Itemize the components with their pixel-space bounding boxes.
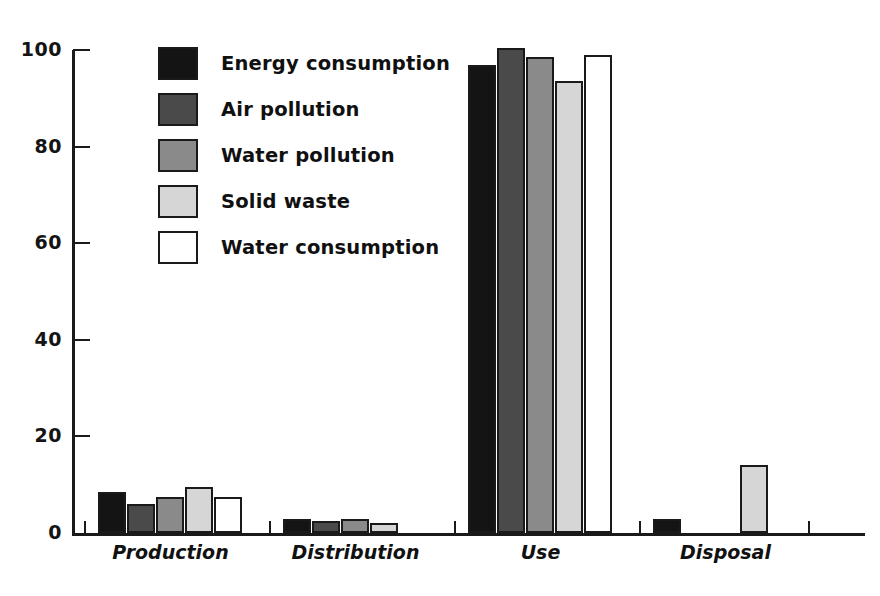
bar-distribution-solid-waste <box>370 523 398 533</box>
bar-production-solid-waste <box>185 487 213 533</box>
bar-production-energy-consumption <box>98 492 126 533</box>
legend-item-water-pollution[interactable]: Water pollution <box>158 132 450 178</box>
legend-label: Solid waste <box>221 190 350 213</box>
chart-legend: Energy consumptionAir pollutionWater pol… <box>158 40 450 270</box>
bar-chart: 020406080100 ProductionDistributionUseDi… <box>0 0 880 596</box>
legend-swatch-icon <box>158 93 198 126</box>
x-axis-label-disposal: Disposal <box>593 542 858 563</box>
legend-label: Water pollution <box>221 144 395 167</box>
legend-swatch-icon <box>158 47 198 80</box>
legend-swatch-icon <box>158 139 198 172</box>
bar-disposal-solid-waste <box>740 465 768 533</box>
legend-item-air-pollution[interactable]: Air pollution <box>158 86 450 132</box>
bar-use-water-pollution <box>526 57 554 533</box>
bar-use-air-pollution <box>497 48 525 533</box>
bar-use-solid-waste <box>555 81 583 533</box>
legend-item-energy-consumption[interactable]: Energy consumption <box>158 40 450 86</box>
legend-item-solid-waste[interactable]: Solid waste <box>158 178 450 224</box>
legend-item-water-consumption[interactable]: Water consumption <box>158 224 450 270</box>
y-axis-tick-label-20: 20 <box>0 426 62 445</box>
legend-label: Water consumption <box>221 236 439 259</box>
legend-label: Air pollution <box>221 98 360 121</box>
bar-distribution-water-pollution <box>341 519 369 533</box>
bar-distribution-air-pollution <box>312 521 340 533</box>
bar-use-energy-consumption <box>468 65 496 534</box>
bar-production-water-pollution <box>156 497 184 533</box>
y-axis-tick-label-60: 60 <box>0 233 62 252</box>
y-axis-tick-label-40: 40 <box>0 330 62 349</box>
legend-swatch-icon <box>158 185 198 218</box>
bar-distribution-energy-consumption <box>283 519 311 533</box>
legend-swatch-icon <box>158 231 198 264</box>
legend-label: Energy consumption <box>221 52 450 75</box>
y-axis-tick-label-0: 0 <box>0 523 62 542</box>
bar-disposal-energy-consumption <box>653 519 681 533</box>
x-axis-line <box>72 533 865 536</box>
y-axis-tick-label-100: 100 <box>0 40 62 59</box>
bar-use-water-consumption <box>584 55 612 533</box>
y-axis-tick-label-80: 80 <box>0 137 62 156</box>
bar-production-water-consumption <box>214 497 242 533</box>
bar-production-air-pollution <box>127 504 155 533</box>
